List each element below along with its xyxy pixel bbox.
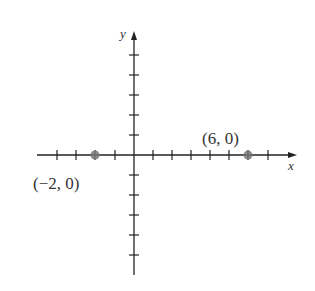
point-6-0: [244, 151, 253, 160]
coordinate-plane: y x (−2, 0) (6, 0): [0, 0, 315, 291]
y-axis: [129, 31, 139, 275]
point-label-6-0: (6, 0): [202, 129, 239, 148]
point-label-neg2-0: (−2, 0): [33, 174, 79, 193]
point-neg2-0: [91, 151, 100, 160]
x-axis: [37, 150, 297, 160]
x-axis-label: x: [287, 158, 294, 173]
y-axis-label: y: [118, 26, 126, 41]
y-axis-arrow-icon: [131, 31, 137, 40]
